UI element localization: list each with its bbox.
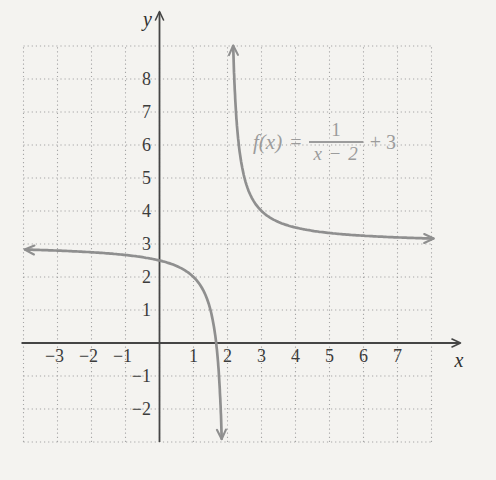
grid <box>24 46 432 442</box>
y-tick-label: 6 <box>142 135 151 155</box>
plus-constant: + 3 <box>370 131 396 154</box>
curve-left-branch <box>25 250 222 439</box>
y-tick-label: 8 <box>142 69 151 89</box>
y-tick-label: 4 <box>142 201 151 221</box>
equals-sign: = <box>289 131 302 154</box>
x-axis-label: x <box>454 349 464 371</box>
fraction-denominator: x − 2 <box>309 144 362 164</box>
y-tick-label: 3 <box>142 234 151 254</box>
y-tick-label: 1 <box>142 300 151 320</box>
fraction-numerator: 1 <box>331 120 341 140</box>
x-tick-label: 2 <box>223 346 232 366</box>
function-name: f(x) <box>253 130 282 155</box>
fraction: 1 x − 2 <box>309 120 362 163</box>
x-tick-label: −1 <box>113 346 132 366</box>
x-tick-label: 4 <box>291 346 300 366</box>
x-tick-label: 7 <box>393 346 402 366</box>
y-tick-label: 2 <box>142 267 151 287</box>
function-graph-canvas: −3−2−1123456787654321−1−2yx <box>0 0 496 480</box>
x-tick-label: 6 <box>359 346 368 366</box>
graph-panel: −3−2−1123456787654321−1−2yx f(x) = 1 x −… <box>0 0 496 480</box>
x-tick-label: −3 <box>45 346 64 366</box>
function-equation-label: f(x) = 1 x − 2 + 3 <box>253 114 396 170</box>
y-tick-label: −2 <box>132 399 151 419</box>
x-tick-labels: −3−2−11234567 <box>45 346 402 366</box>
x-tick-label: 5 <box>325 346 334 366</box>
y-axis-label: y <box>141 8 152 31</box>
y-tick-label: −1 <box>132 366 151 386</box>
x-tick-label: −2 <box>79 346 98 366</box>
x-tick-label: 1 <box>189 346 198 366</box>
y-tick-label: 7 <box>142 102 151 122</box>
y-tick-label: 5 <box>142 168 151 188</box>
x-tick-label: 3 <box>257 346 266 366</box>
